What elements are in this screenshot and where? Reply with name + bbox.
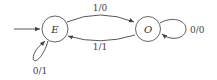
transition-label-o-to-e: 1/1	[93, 42, 107, 52]
state-o: O	[136, 17, 161, 42]
transition-o-to-e	[68, 35, 135, 41]
state-machine-diagram: 1/0 1/1 0/1 0/0 E O	[0, 0, 217, 80]
self-loop-label-o: 0/0	[190, 25, 205, 35]
self-loop-e	[33, 41, 48, 61]
transition-label-e-to-o: 1/0	[93, 3, 108, 13]
self-loop-o	[160, 19, 186, 38]
transition-e-to-o	[67, 15, 134, 22]
self-loop-label-e: 0/1	[33, 66, 47, 76]
state-o-label: O	[144, 24, 152, 35]
state-e-label: E	[50, 24, 59, 35]
state-e: E	[42, 16, 68, 42]
